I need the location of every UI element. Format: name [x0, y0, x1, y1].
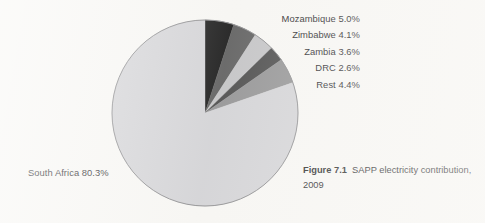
- slice-label-south-africa: South Africa 80.3%: [28, 167, 109, 178]
- slice-label-drc: DRC 2.6%: [238, 60, 360, 76]
- figure-caption-number: Figure 7.1: [303, 165, 347, 175]
- pie-slice-labels: Mozambique 5.0% Zimbabwe 4.1% Zambia 3.6…: [238, 11, 360, 93]
- slice-label-zimbabwe: Zimbabwe 4.1%: [238, 27, 360, 43]
- slice-label-rest: Rest 4.4%: [238, 77, 360, 93]
- figure-caption: Figure 7.1 SAPP electricity contribution…: [303, 163, 475, 192]
- figure-7-1: Mozambique 5.0% Zimbabwe 4.1% Zambia 3.6…: [0, 0, 485, 223]
- slice-label-mozambique: Mozambique 5.0%: [238, 11, 360, 27]
- slice-label-zambia: Zambia 3.6%: [238, 44, 360, 60]
